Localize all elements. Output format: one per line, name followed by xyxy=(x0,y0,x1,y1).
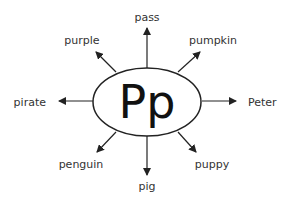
word-label-purple: purple xyxy=(64,34,100,47)
word-label-pumpkin: pumpkin xyxy=(189,34,237,47)
arrow-pumpkin-icon xyxy=(178,52,200,72)
arrow-purple-icon xyxy=(96,52,116,72)
arrow-puppy-icon xyxy=(178,132,196,152)
center-letter-label: Pp xyxy=(119,75,176,129)
word-label-penguin: penguin xyxy=(59,158,104,171)
word-label-peter: Peter xyxy=(248,96,277,109)
word-label-pig: pig xyxy=(138,180,155,193)
word-label-pass: pass xyxy=(134,11,159,24)
arrow-penguin-icon xyxy=(97,132,116,152)
word-web-diagram: passpumpkinPeterpuppypigpenguinpiratepur… xyxy=(0,0,289,205)
word-label-pirate: pirate xyxy=(14,96,47,109)
word-label-puppy: puppy xyxy=(195,158,230,171)
